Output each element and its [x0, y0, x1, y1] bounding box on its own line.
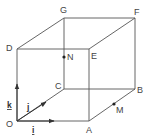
label-vector-i: i	[32, 125, 34, 135]
point-N-dot	[62, 55, 65, 58]
label-vector-j: j	[26, 102, 29, 112]
label-D: D	[6, 43, 13, 53]
label-C: C	[55, 81, 62, 91]
label-vector-k: k	[7, 100, 12, 110]
edge-AB	[89, 89, 135, 121]
cuboid-diagram: O A B C D E F G N M i j k	[0, 0, 146, 139]
label-F: F	[134, 7, 140, 17]
edge-EF	[89, 18, 135, 49]
label-M: M	[116, 105, 124, 115]
label-O: O	[6, 119, 13, 129]
vector-j-arrow	[17, 102, 46, 121]
label-B: B	[137, 85, 143, 95]
label-E: E	[91, 51, 97, 61]
label-G: G	[60, 5, 67, 15]
label-A: A	[86, 125, 92, 135]
edge-DG	[17, 18, 64, 49]
label-N: N	[67, 52, 74, 62]
